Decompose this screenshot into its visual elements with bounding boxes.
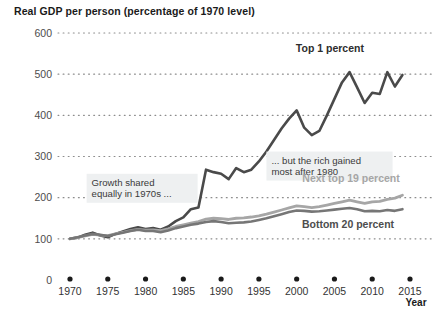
x-axis-tick-label: 2000 [285,285,309,297]
x-axis-title: Year [405,297,426,308]
y-axis-tick-labels: 0100200300400500600 [34,27,52,286]
x-axis-tick-labels: 1970197519801985199019952000200520102015 [58,285,422,297]
x-axis-tick-mark [67,276,72,281]
y-axis-tick-label: 500 [34,68,52,80]
series-label: Bottom 20 percent [302,218,395,230]
y-axis-tick-label: 300 [34,150,52,162]
annotation-callout-line: Growth shared [92,177,155,188]
x-axis-tick-mark [105,276,110,281]
x-axis-tick-label: 1975 [96,285,120,297]
series-label: Next top 19 percent [302,172,400,184]
x-axis-tick-mark [181,276,186,281]
series-label: Top 1 percent [296,42,365,54]
gridlines-group [58,33,432,239]
x-axis-tick-mark [370,276,375,281]
x-axis-tick-mark [256,276,261,281]
annotation-callout-line: equally in 1970s ... [92,188,172,199]
x-axis-tick-label: 1995 [247,285,271,297]
y-axis-tick-label: 200 [34,191,52,203]
x-axis-tick-label: 2010 [361,285,385,297]
x-axis-tick-mark [332,276,337,281]
x-axis-tick-label: 1970 [58,285,82,297]
x-axis-tick-label: 2015 [398,285,422,297]
y-axis-tick-label: 100 [34,233,52,245]
x-axis-tick-label: 1990 [209,285,233,297]
x-axis-tick-mark [407,276,412,281]
x-axis-tick-mark [294,276,299,281]
chart-plot-area: 0100200300400500600 19701975198019851990… [0,0,434,320]
chart-figure: Real GDP per person (percentage of 1970 … [0,0,434,320]
annotation-callout-line: ... but the rich gained [271,155,361,166]
x-axis-tick-marks [67,276,412,281]
y-axis-tick-label: 600 [34,27,52,39]
x-axis-tick-label: 1985 [172,285,196,297]
x-axis-tick-mark [219,276,224,281]
x-axis-tick-label: 1980 [134,285,158,297]
y-axis-tick-label: 400 [34,109,52,121]
x-axis-tick-label: 2005 [323,285,347,297]
x-axis-tick-mark [143,276,148,281]
y-axis-tick-label: 0 [46,274,52,286]
